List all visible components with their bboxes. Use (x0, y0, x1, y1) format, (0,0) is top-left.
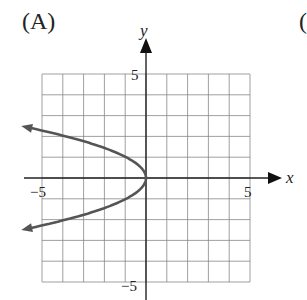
y-min-label: −5 (121, 278, 137, 294)
x-min-label: −5 (30, 184, 46, 200)
x-max-label: 5 (244, 184, 252, 200)
curve-arrow-top-icon (21, 124, 33, 133)
coordinate-plane: x y −5 5 5 −5 (0, 0, 307, 300)
x-axis-label: x (285, 168, 294, 187)
x-axis-arrow-icon (268, 172, 282, 184)
y-max-label: 5 (131, 67, 139, 83)
y-axis-arrow-icon (140, 38, 152, 53)
curve-arrow-bottom-icon (21, 223, 33, 232)
y-axis-label: y (138, 21, 148, 40)
